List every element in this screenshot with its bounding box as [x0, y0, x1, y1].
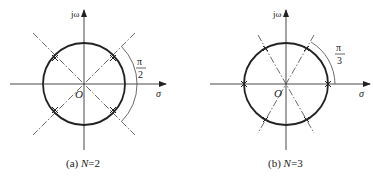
origin-label: O	[274, 87, 282, 99]
butterworth-pole-diagrams: jω σ O π 2 jω σ O π 3	[0, 0, 373, 181]
angle-denominator: 3	[337, 55, 342, 66]
caption-a: (a) N=2	[66, 157, 100, 169]
angle-numerator: π	[137, 56, 142, 67]
caption-a-suffix: =2	[88, 157, 100, 169]
angle-denominator: 2	[138, 69, 143, 80]
jomega-label: jω	[272, 9, 282, 19]
sigma-label: σ	[156, 88, 162, 99]
caption-a-prefix: (a)	[66, 157, 81, 169]
caption-b-suffix: =3	[291, 157, 303, 169]
origin-label: O	[75, 88, 83, 100]
panel-b-diagram: jω σ O π 3	[210, 9, 370, 150]
caption-b-prefix: (b)	[268, 157, 284, 169]
sigma-label: σ	[359, 88, 365, 99]
caption-b: (b) N=3	[268, 157, 303, 169]
jomega-label: jω	[70, 9, 80, 19]
angle-numerator: π	[336, 42, 341, 53]
caption-b-var: N	[284, 157, 291, 169]
panel-a-diagram: jω σ O π 2	[10, 9, 166, 150]
